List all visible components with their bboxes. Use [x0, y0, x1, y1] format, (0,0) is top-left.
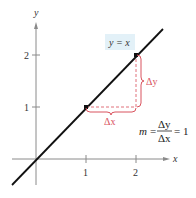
y-axis-label: y	[33, 7, 39, 18]
delta-y-brace-icon	[137, 55, 144, 107]
slope-m: m	[139, 125, 147, 137]
y-axis-arrow-icon	[34, 22, 38, 29]
slope-diagram: y x 1 2 1 2 Δx Δy y = x m = Δy Δx = 1	[0, 0, 196, 198]
x-axis-label: x	[172, 153, 178, 164]
x-tick-label-1: 1	[83, 167, 88, 178]
rise-run-dashes	[86, 55, 136, 107]
delta-x-label: Δx	[104, 116, 115, 127]
delta-x-brace-icon	[86, 108, 136, 115]
slope-denominator: Δx	[158, 132, 171, 144]
slope-numerator: Δy	[158, 118, 171, 130]
y-tick-label-1: 1	[24, 102, 29, 113]
y-tick-label-2: 2	[24, 50, 29, 61]
slope-result: = 1	[174, 125, 188, 137]
x-axis-arrow-icon	[163, 157, 170, 161]
equation-label: y = x	[108, 37, 130, 48]
x-tick-label-2: 2	[133, 167, 138, 178]
delta-y-label: Δy	[146, 76, 157, 87]
slope-equals: =	[150, 125, 156, 137]
